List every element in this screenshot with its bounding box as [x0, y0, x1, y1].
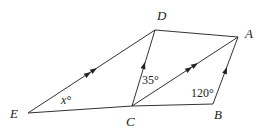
- geometry-diagram: E C B A D x° 35° 120°: [0, 0, 268, 132]
- angle-label-C: 35°: [142, 73, 159, 87]
- angle-label-E: x°: [60, 93, 71, 107]
- label-A: A: [244, 26, 253, 41]
- label-C: C: [126, 114, 135, 129]
- segment-EC: [28, 106, 132, 113]
- angle-label-B: 120°: [191, 86, 214, 100]
- parallel-arrow-BA: [222, 66, 229, 74]
- segment-DA: [155, 30, 238, 37]
- label-E: E: [9, 106, 18, 121]
- segment-CA: [132, 37, 238, 106]
- label-B: B: [214, 107, 222, 122]
- parallel-arrow-CD: [141, 61, 148, 69]
- label-D: D: [156, 8, 167, 23]
- segment-CB: [132, 104, 213, 106]
